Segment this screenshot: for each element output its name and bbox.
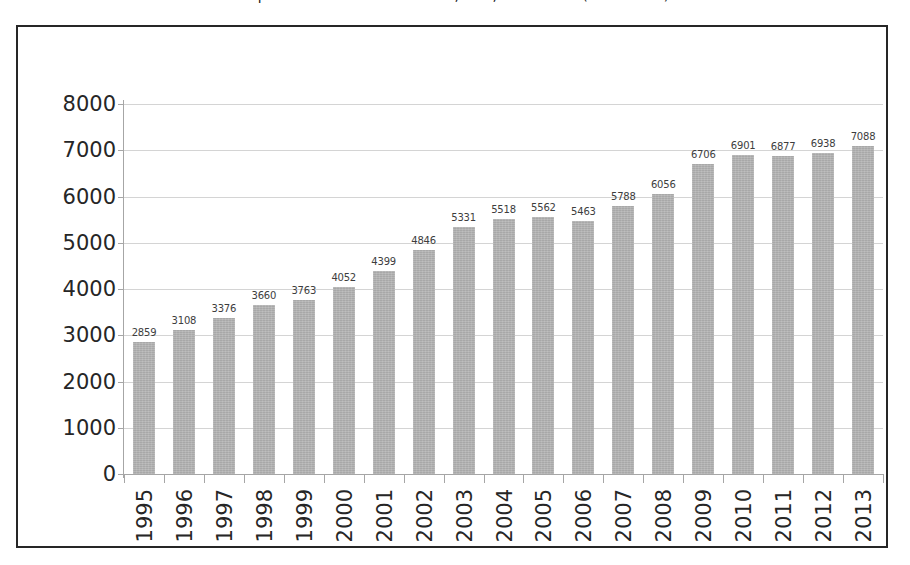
bar[interactable] — [133, 342, 155, 474]
y-axis-labels: 800070006000500040003000200010000 — [34, 27, 116, 546]
x-axis-tick-label: 2002 — [415, 489, 433, 542]
page-title: Exports of Goods and Services, USA, 1995… — [0, 0, 910, 3]
x-axis-tick-label: 2013 — [854, 489, 872, 542]
y-axis-tick-mark — [118, 243, 123, 244]
y-axis-tick-label: 1000 — [42, 417, 116, 438]
x-axis-tick-label: 2005 — [534, 489, 552, 542]
bar-value-label: 4846 — [402, 236, 446, 246]
y-axis-tick-label: 7000 — [42, 140, 116, 161]
bar-value-label: 3763 — [282, 286, 326, 296]
y-axis-tick-mark — [118, 150, 123, 151]
x-axis-tick-mark — [643, 474, 644, 483]
bar-value-label: 5562 — [521, 203, 565, 213]
gridline-0 — [124, 474, 883, 475]
x-axis-tick-mark — [523, 474, 524, 483]
x-axis-tick-label: 2010 — [734, 489, 752, 542]
y-axis-tick-label: 3000 — [42, 325, 116, 346]
x-axis-tick-label: 1999 — [295, 489, 313, 542]
bar-value-label: 5463 — [561, 207, 605, 217]
bar-value-label: 5788 — [601, 192, 645, 202]
x-axis-tick-mark — [164, 474, 165, 483]
chart-frame: 800070006000500040003000200010000 285931… — [16, 25, 888, 548]
x-axis-tick-mark — [763, 474, 764, 483]
x-axis-tick-mark — [563, 474, 564, 483]
bar[interactable] — [812, 153, 834, 474]
x-axis-tick-mark — [723, 474, 724, 483]
y-axis-tick-mark — [118, 474, 123, 475]
x-axis-tick-label: 2004 — [495, 489, 513, 542]
x-axis-tick-label: 1995 — [135, 489, 153, 542]
bar[interactable] — [772, 156, 794, 474]
x-axis-tick-label: 1997 — [215, 489, 233, 542]
bar[interactable] — [453, 227, 475, 474]
bar-value-label: 3376 — [202, 304, 246, 314]
bar-value-label: 7088 — [841, 132, 885, 142]
bar[interactable] — [373, 271, 395, 474]
gridline-6000 — [124, 197, 883, 198]
x-axis-tick-label: 2000 — [335, 489, 353, 542]
x-axis-tick-label: 1996 — [175, 489, 193, 542]
y-axis-tick-label: 8000 — [42, 94, 116, 115]
bar[interactable] — [413, 250, 435, 474]
chart-title-strip: Exports of Goods and Services, USA, 1995… — [0, 0, 910, 14]
bar[interactable] — [253, 305, 275, 474]
bar[interactable] — [692, 164, 714, 474]
bar[interactable] — [532, 217, 554, 474]
bar-value-label: 6938 — [801, 139, 845, 149]
x-axis-tick-mark — [484, 474, 485, 483]
bar-value-label: 3660 — [242, 291, 286, 301]
x-axis-tick-mark — [883, 474, 884, 483]
x-axis-tick-mark — [324, 474, 325, 483]
bar[interactable] — [213, 318, 235, 474]
bar[interactable] — [293, 300, 315, 474]
x-axis-tick-label: 2012 — [814, 489, 832, 542]
x-axis-tick-mark — [204, 474, 205, 483]
y-axis-tick-mark — [118, 382, 123, 383]
bar-value-label: 3108 — [162, 316, 206, 326]
bar-value-label: 2859 — [122, 328, 166, 338]
bar-value-label: 5518 — [482, 205, 526, 215]
bar[interactable] — [612, 206, 634, 474]
bar-value-label: 5331 — [442, 213, 486, 223]
bar-value-label: 6056 — [641, 180, 685, 190]
x-axis-tick-mark — [404, 474, 405, 483]
y-axis-tick-mark — [118, 428, 123, 429]
bar[interactable] — [572, 221, 594, 474]
bar-value-label: 4399 — [362, 257, 406, 267]
y-axis-tick-mark — [118, 104, 123, 105]
bar[interactable] — [173, 330, 195, 474]
x-axis-tick-mark — [364, 474, 365, 483]
x-axis-tick-mark — [803, 474, 804, 483]
x-axis-tick-label: 2009 — [694, 489, 712, 542]
y-axis-tick-label: 5000 — [42, 232, 116, 253]
y-axis-tick-label: 6000 — [42, 186, 116, 207]
bar[interactable] — [333, 287, 355, 474]
bar-value-label: 4052 — [322, 273, 366, 283]
x-axis-tick-mark — [843, 474, 844, 483]
x-axis-tick-label: 2011 — [774, 489, 792, 542]
x-axis-tick-mark — [284, 474, 285, 483]
y-axis-tick-label: 0 — [42, 464, 116, 485]
y-axis-tick-label: 2000 — [42, 371, 116, 392]
x-axis-tick-mark — [603, 474, 604, 483]
x-axis-tick-label: 2003 — [455, 489, 473, 542]
gridline-8000 — [124, 104, 883, 105]
y-axis-tick-mark — [118, 289, 123, 290]
plot-area: 2859310833763660376340524399484653315518… — [124, 104, 883, 474]
x-axis-tick-label: 1998 — [255, 489, 273, 542]
x-axis-tick-label: 2001 — [375, 489, 393, 542]
x-axis-tick-mark — [444, 474, 445, 483]
x-axis-tick-label: 2006 — [574, 489, 592, 542]
bar-value-label: 6706 — [681, 150, 725, 160]
y-axis-tick-label: 4000 — [42, 279, 116, 300]
x-axis-tick-mark — [244, 474, 245, 483]
bar[interactable] — [852, 146, 874, 474]
y-axis-tick-mark — [118, 197, 123, 198]
bar[interactable] — [732, 155, 754, 474]
y-axis-tick-mark — [118, 335, 123, 336]
x-axis-tick-mark — [124, 474, 125, 483]
bar[interactable] — [493, 219, 515, 474]
x-axis-tick-mark — [683, 474, 684, 483]
bar[interactable] — [652, 194, 674, 474]
bar-value-label: 6901 — [721, 141, 765, 151]
